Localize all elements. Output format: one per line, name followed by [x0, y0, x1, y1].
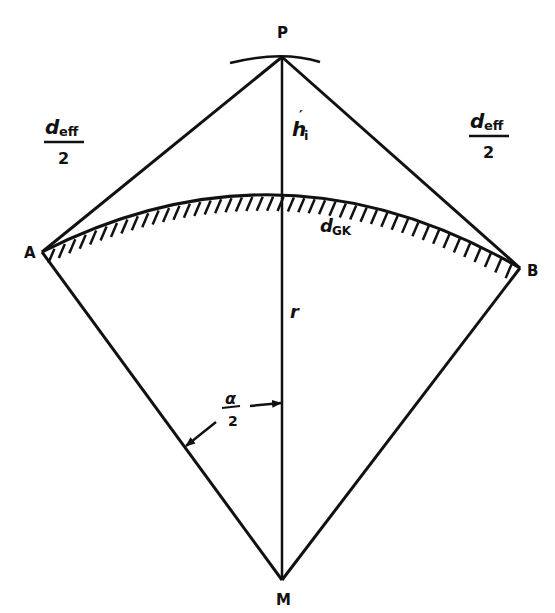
svg-text:2: 2 [58, 149, 69, 168]
angle-arrow-right [250, 403, 281, 406]
hatching [48, 197, 511, 278]
geometry-diagram: P A B M d eff 2 d eff 2 h ′ i d GK r α 2 [0, 0, 555, 613]
edge-P-A [42, 57, 282, 252]
edge-P-B [282, 57, 520, 268]
svg-text:eff: eff [484, 118, 504, 133]
label-height: h ′ i [292, 107, 308, 143]
svg-text:d: d [45, 115, 60, 139]
label-angle: α 2 [222, 389, 240, 429]
svg-text:i: i [304, 128, 308, 143]
angle-arrow-left [186, 422, 216, 446]
point-label-P: P [277, 24, 288, 42]
point-label-B: B [527, 262, 538, 280]
edge-B-M [282, 268, 520, 580]
svg-text:′: ′ [299, 107, 303, 123]
svg-text:2: 2 [483, 143, 494, 162]
point-label-A: A [24, 244, 36, 262]
label-deff-left: d eff 2 [44, 115, 84, 168]
svg-text:eff: eff [59, 124, 79, 139]
label-deff-right: d eff 2 [469, 109, 509, 162]
label-dGK: d GK [320, 215, 352, 238]
svg-text:α: α [225, 389, 237, 408]
svg-text:2: 2 [228, 413, 238, 429]
point-label-M: M [276, 591, 291, 609]
label-radius: r [290, 301, 300, 322]
svg-text:d: d [470, 109, 485, 133]
edge-A-M [42, 252, 282, 580]
svg-text:GK: GK [332, 224, 352, 238]
